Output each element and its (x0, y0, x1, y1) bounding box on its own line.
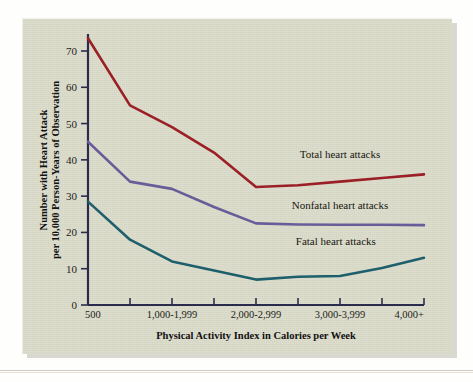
y-axis-title-line-2: per 10,000 Person-Years of Observation (50, 81, 61, 259)
y-axis-title-line-1: Number with Heart Attack (38, 109, 49, 230)
y-tick-label: 20 (66, 226, 78, 238)
series-line-total-heart-attacks (88, 38, 424, 187)
series-annotation: Total heart attacks (300, 148, 380, 160)
x-tick-label: 2,000-2,999 (231, 309, 282, 320)
y-tick-label: 10 (66, 263, 78, 275)
y-tick-label: 70 (66, 45, 78, 57)
series-annotation-group: Total heart attacksNonfatal heart attack… (292, 148, 389, 247)
y-tick-label: 0 (72, 299, 78, 311)
x-tick-label: 3,000-3,999 (315, 309, 366, 320)
axes-group (88, 34, 424, 305)
x-axis-title: Physical Activity Index in Calories per … (156, 330, 356, 341)
x-tick-label: 4,000+ (394, 309, 424, 320)
y-tick-label: 60 (66, 81, 78, 93)
x-tick-label: 500 (85, 309, 101, 320)
series-annotation: Nonfatal heart attacks (292, 199, 389, 211)
line-chart: 010203040506070 5001,000-1,9992,000-2,99… (0, 0, 473, 382)
y-tick-label: 40 (66, 154, 78, 166)
y-tick-label: 30 (66, 190, 78, 202)
x-tick-label-group: 5001,000-1,9992,000-2,9993,000-3,9994,00… (85, 309, 424, 320)
figure-root: 010203040506070 5001,000-1,9992,000-2,99… (0, 0, 473, 382)
series-annotation: Fatal heart attacks (296, 235, 376, 247)
y-tick-group: 010203040506070 (66, 45, 88, 311)
x-tick-label: 1,000-1,999 (147, 309, 198, 320)
y-tick-label: 50 (66, 118, 78, 130)
